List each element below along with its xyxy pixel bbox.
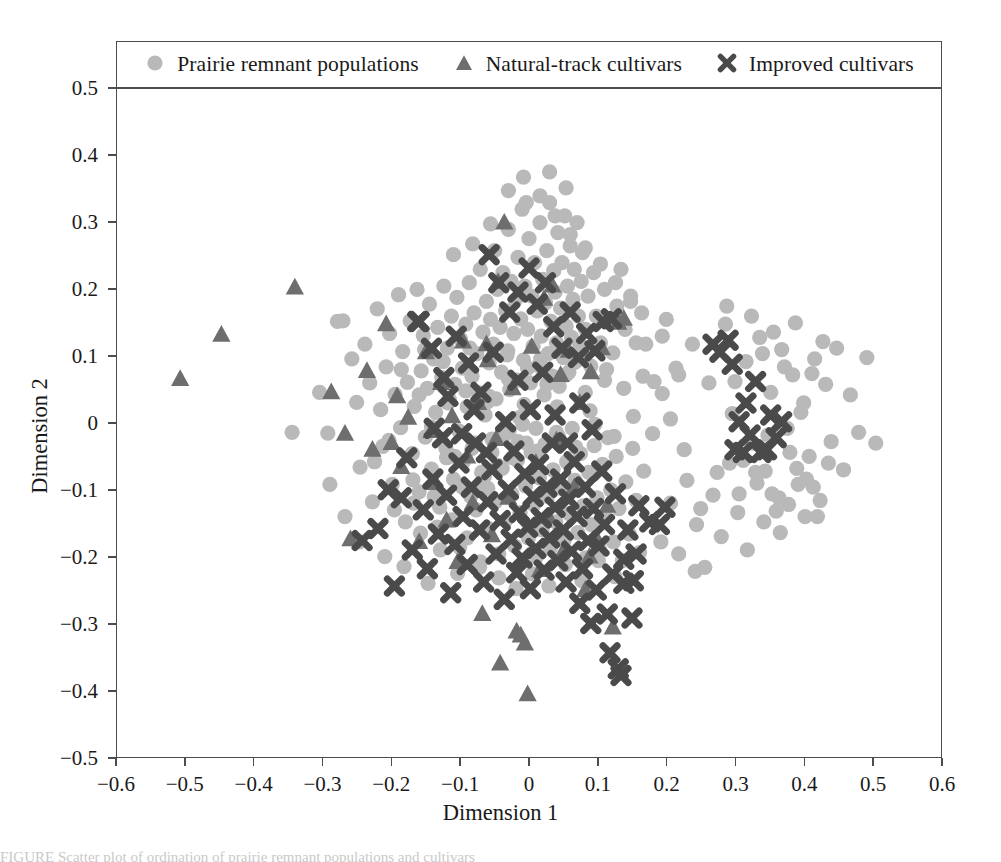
data-point bbox=[725, 357, 739, 371]
x-axis-tick-label: −0.1 bbox=[441, 772, 479, 797]
data-point bbox=[377, 314, 395, 331]
x-axis-tick-label: −0.2 bbox=[372, 772, 410, 797]
data-point bbox=[584, 616, 598, 630]
y-axis-tick-label: 0.2 bbox=[16, 277, 98, 302]
data-point bbox=[807, 351, 822, 366]
data-point bbox=[659, 312, 674, 327]
data-point bbox=[663, 411, 678, 426]
data-point bbox=[634, 305, 649, 320]
data-point bbox=[542, 164, 557, 179]
legend-label-prairie-remnant-populations: Prairie remnant populations bbox=[177, 54, 419, 76]
data-point bbox=[212, 325, 230, 342]
x-axis-tick-label: −0.3 bbox=[303, 772, 341, 797]
data-point bbox=[322, 477, 337, 492]
x-axis-tick bbox=[528, 758, 529, 766]
data-point bbox=[777, 359, 792, 374]
data-point bbox=[428, 405, 443, 420]
data-point bbox=[748, 465, 763, 480]
x-axis-tick-label: 0.2 bbox=[654, 772, 680, 797]
x-axis-tick bbox=[391, 758, 392, 766]
data-point bbox=[412, 387, 427, 402]
data-point bbox=[671, 546, 686, 561]
data-point bbox=[646, 374, 661, 389]
data-point bbox=[416, 503, 430, 517]
data-point bbox=[755, 346, 770, 361]
y-axis-tick bbox=[108, 757, 116, 758]
x-axis-tick-label: −0.6 bbox=[97, 772, 135, 797]
data-point bbox=[578, 480, 592, 494]
data-point bbox=[516, 170, 531, 185]
x-axis-tick bbox=[253, 758, 254, 766]
data-point bbox=[444, 308, 459, 323]
data-point bbox=[818, 377, 833, 392]
data-point bbox=[462, 275, 477, 290]
data-point bbox=[623, 294, 638, 309]
x-axis-tick-label: 0.1 bbox=[585, 772, 611, 797]
data-point bbox=[405, 472, 420, 487]
data-point bbox=[395, 344, 410, 359]
data-point bbox=[357, 337, 372, 352]
data-point bbox=[422, 296, 437, 311]
legend-label-improved-cultivars: Improved cultivars bbox=[749, 54, 914, 76]
data-point bbox=[740, 542, 755, 557]
data-point bbox=[868, 435, 883, 450]
x-marker-icon bbox=[716, 52, 738, 78]
data-point bbox=[752, 330, 767, 345]
y-axis-tick-label: 0.5 bbox=[16, 76, 98, 101]
data-point bbox=[379, 359, 394, 374]
data-point bbox=[804, 366, 819, 381]
data-point bbox=[560, 278, 575, 293]
x-axis-tick-label: 0.4 bbox=[791, 772, 817, 797]
data-point bbox=[495, 213, 513, 230]
x-axis-tick-label: −0.4 bbox=[235, 772, 273, 797]
data-point bbox=[731, 486, 746, 501]
data-point bbox=[653, 534, 668, 549]
data-point bbox=[284, 425, 299, 440]
data-point bbox=[352, 459, 367, 474]
x-axis-tick bbox=[941, 758, 942, 766]
y-axis-tick-label: 0.3 bbox=[16, 210, 98, 235]
x-axis-tick bbox=[666, 758, 667, 766]
data-point bbox=[541, 578, 556, 593]
data-point bbox=[387, 579, 401, 593]
x-axis-tick bbox=[735, 758, 736, 766]
data-point bbox=[497, 592, 511, 606]
data-point bbox=[396, 559, 411, 574]
data-point bbox=[802, 449, 817, 464]
data-point bbox=[608, 275, 623, 290]
data-point bbox=[626, 409, 641, 424]
x-axis-tick-label: 0.3 bbox=[722, 772, 748, 797]
data-point bbox=[559, 575, 573, 589]
data-point bbox=[764, 486, 779, 501]
y-axis-tick-label: −0.5 bbox=[16, 746, 98, 771]
data-point bbox=[539, 243, 554, 258]
data-point bbox=[693, 501, 708, 516]
data-point bbox=[613, 262, 628, 277]
data-point bbox=[788, 315, 803, 330]
data-point bbox=[671, 367, 686, 382]
data-point bbox=[479, 294, 494, 309]
y-axis-tick bbox=[108, 154, 116, 155]
y-axis-tick-label: −0.3 bbox=[16, 612, 98, 637]
data-point bbox=[593, 256, 608, 271]
data-point bbox=[391, 287, 406, 302]
data-point bbox=[813, 493, 828, 508]
y-axis-tick bbox=[108, 623, 116, 624]
data-point bbox=[335, 313, 350, 328]
data-point bbox=[655, 329, 670, 344]
data-point bbox=[829, 341, 844, 356]
data-point bbox=[815, 334, 830, 349]
data-point bbox=[573, 596, 587, 610]
data-point bbox=[449, 290, 464, 305]
data-point bbox=[370, 301, 385, 316]
data-point bbox=[587, 438, 602, 453]
data-point bbox=[377, 549, 392, 564]
data-point bbox=[714, 529, 729, 544]
data-point bbox=[705, 488, 720, 503]
data-point bbox=[349, 395, 364, 410]
x-axis-tick-label: 0.5 bbox=[860, 772, 886, 797]
data-point bbox=[466, 305, 481, 320]
data-point bbox=[465, 236, 480, 251]
y-axis-tick bbox=[108, 422, 116, 423]
x-axis-tick bbox=[459, 758, 460, 766]
